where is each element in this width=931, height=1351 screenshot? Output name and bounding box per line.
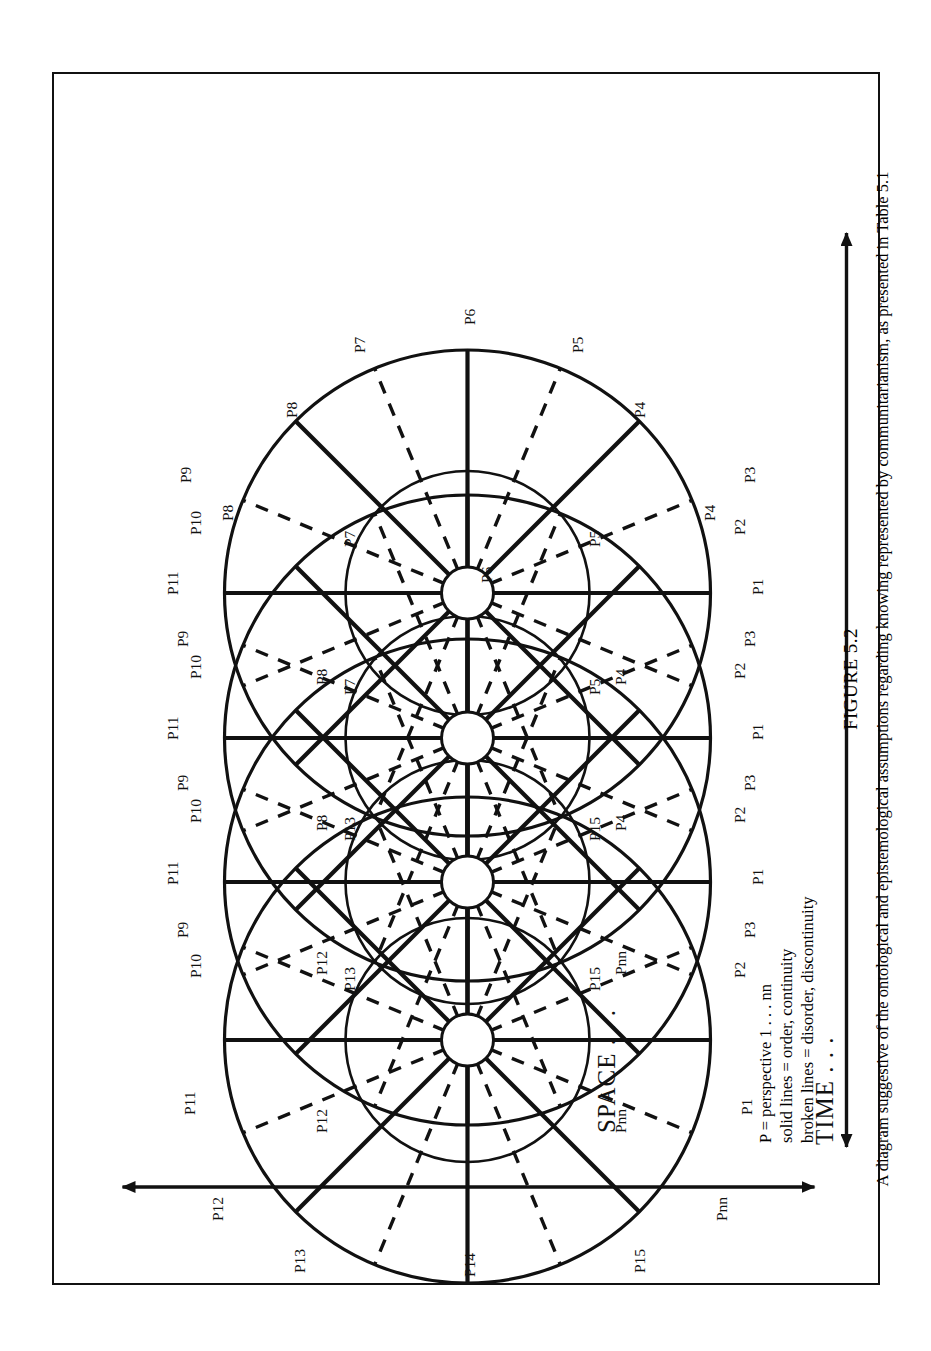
label-P1-a: P1 — [738, 1098, 755, 1114]
label-P15: P15 — [631, 1248, 648, 1272]
label-P10-c: P10 — [187, 654, 204, 678]
label-P2-a: P2 — [731, 961, 748, 977]
legend-line-a: P = perspective 1 . . . nn — [755, 243, 776, 1143]
label-P13: P13 — [291, 1248, 308, 1272]
label-Pnn-a: Pnn — [713, 1196, 730, 1220]
figure-caption-text: A diagram suggestive of the ontological … — [873, 75, 893, 1283]
label-P8-inner-c: P8 — [313, 814, 330, 831]
figure-caption-block: FIGURE 5.2 A diagram suggestive of the o… — [840, 75, 893, 1283]
label-P15-inner-a: P15 — [586, 966, 603, 990]
label-P11-d: P11 — [164, 571, 181, 595]
label-P11-c: P11 — [164, 716, 181, 740]
legend-line-c: broken lines = disorder, discontinuity — [797, 243, 818, 1143]
space-axis-label: SPACE . . . — [593, 1008, 620, 1132]
label-P8-inner-d: P8 — [313, 668, 330, 685]
label-P9-d: P9 — [174, 630, 191, 647]
figure-stage: P15 P14 P13 Pnn P1 P2 P12 P11 P10 Pnn P1… — [55, 75, 878, 1283]
label-P8-outer: P8 — [283, 401, 300, 418]
figure-number: FIGURE 5.2 — [840, 75, 862, 1283]
label-P13-inner-a: P13 — [341, 966, 358, 990]
label-P11-a: P11 — [181, 1091, 198, 1115]
label-P5-inner-d: P5 — [586, 530, 603, 547]
label-P7-inner-c: P7 — [341, 678, 358, 695]
label-P11-b: P11 — [164, 861, 181, 885]
diagram-geometry — [225, 350, 711, 1283]
label-P9-outer: P9 — [177, 466, 194, 483]
legend-block: P = perspective 1 . . . nn solid lines =… — [755, 243, 818, 1143]
label-P8-mid: P8 — [219, 504, 236, 521]
label-P5-outer: P5 — [569, 336, 586, 353]
label-P5-inner-c: P5 — [586, 678, 603, 695]
label-P10-b: P10 — [187, 798, 204, 822]
perspective-labels: P15 P14 P13 Pnn P1 P2 P12 P11 P10 Pnn P1… — [164, 308, 766, 1277]
label-P4-outer: P4 — [631, 401, 648, 418]
label-P2-b: P2 — [731, 806, 748, 822]
label-P6-inner-d: P6 — [478, 566, 495, 583]
label-Pnn-inner-b: Pnn — [612, 950, 629, 974]
label-P2-d: P2 — [731, 518, 748, 534]
label-P12-inner-a: P12 — [313, 1108, 330, 1132]
label-P4-mid: P4 — [701, 504, 718, 521]
label-P7-inner-d: P7 — [341, 530, 358, 547]
label-P10-a: P10 — [187, 953, 204, 977]
label-P10-d: P10 — [187, 510, 204, 534]
label-P9-b: P9 — [174, 921, 191, 938]
label-P15-inner-b: P15 — [586, 816, 603, 840]
label-P12-inner-b: P12 — [313, 950, 330, 974]
label-P6-outer: P6 — [461, 308, 478, 325]
label-P4-inner-d: P4 — [612, 668, 629, 685]
label-P7-outer: P7 — [351, 336, 368, 353]
label-P12-a: P12 — [209, 1196, 226, 1220]
label-P13-inner-b: P13 — [341, 816, 358, 840]
label-P14: P14 — [461, 1252, 478, 1276]
label-P9-c: P9 — [174, 774, 191, 791]
figure-frame: P15 P14 P13 Pnn P1 P2 P12 P11 P10 Pnn P1… — [52, 72, 880, 1285]
label-P4-inner-c: P4 — [612, 814, 629, 831]
legend-line-b: solid lines = order, continuity — [776, 243, 797, 1143]
label-P2-c: P2 — [731, 662, 748, 678]
